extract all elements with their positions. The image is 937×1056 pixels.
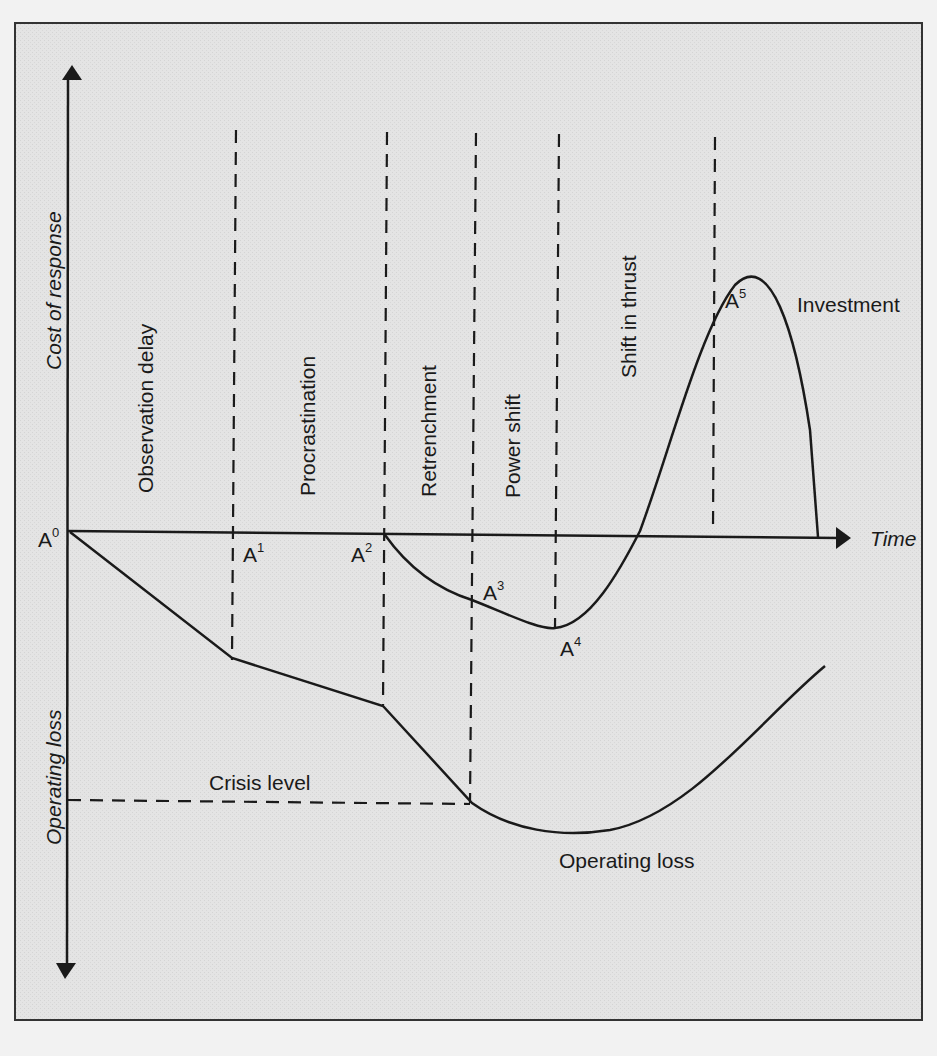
phase-label-power-shift: Power shift: [501, 394, 524, 498]
operating-loss-curve-label: Operating loss: [559, 849, 694, 872]
phase-label-shift-in-thrust: Shift in thrust: [617, 255, 640, 378]
turnaround-diagram: Cost of response Operating loss Time Obs…: [0, 0, 937, 1056]
diagram-frame: [15, 23, 922, 1020]
crisis-level-label: Crisis level: [209, 771, 311, 794]
x-axis-label: Time: [870, 527, 916, 550]
y-positive-axis-label: Cost of response: [42, 211, 65, 370]
y-axis: [67, 78, 68, 965]
investment-label: Investment: [797, 293, 900, 316]
phase-label-observation-delay: Observation delay: [134, 323, 157, 493]
phase-label-procrastination: Procrastination: [296, 356, 319, 496]
y-negative-axis-label: Operating loss: [42, 709, 65, 845]
phase-label-retrenchment: Retrenchment: [417, 365, 440, 497]
